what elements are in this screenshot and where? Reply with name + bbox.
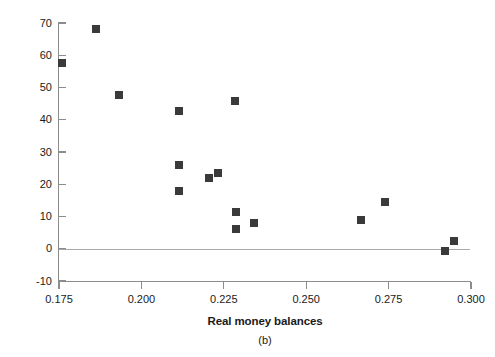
x-tick: [388, 282, 389, 289]
data-point: [441, 247, 449, 255]
y-tick-label: 0: [18, 243, 52, 254]
x-tick: [58, 282, 59, 289]
y-tick-label: 30: [18, 147, 52, 158]
data-point: [450, 237, 458, 245]
x-tick-label: 0.300: [448, 294, 494, 305]
data-point: [175, 107, 183, 115]
x-tick-label: 0.250: [283, 294, 329, 305]
data-point: [175, 187, 183, 195]
data-point: [205, 174, 213, 182]
y-tick-label: 10: [18, 211, 52, 222]
data-point: [232, 208, 240, 216]
panel-caption: (b): [59, 334, 471, 346]
x-axis-title: Real money balances: [59, 315, 471, 327]
x-tick: [223, 282, 224, 289]
x-tick-label: 0.225: [201, 294, 247, 305]
scatter-plot-figure: Monthly inflation rate (percent) -100102…: [0, 0, 495, 357]
data-point: [175, 161, 183, 169]
x-tick: [306, 282, 307, 289]
x-tick-label: 0.175: [36, 294, 82, 305]
y-tick-label: 70: [18, 18, 52, 29]
x-tick: [141, 282, 142, 289]
plot-area: [59, 23, 471, 281]
y-tick-label: -10: [18, 276, 52, 287]
data-point: [58, 59, 66, 67]
x-tick-label: 0.275: [366, 294, 412, 305]
y-tick-label: 20: [18, 179, 52, 190]
data-point: [231, 97, 239, 105]
data-point: [214, 169, 222, 177]
data-point: [250, 219, 258, 227]
y-tick-label: 50: [18, 82, 52, 93]
data-point: [357, 216, 365, 224]
y-tick-label: 40: [18, 114, 52, 125]
x-axis-line: [58, 281, 471, 282]
x-tick-label: 0.200: [118, 294, 164, 305]
x-tick: [470, 282, 471, 289]
data-point: [92, 25, 100, 33]
y-tick-label: 60: [18, 50, 52, 61]
data-point: [232, 225, 240, 233]
data-point: [115, 91, 123, 99]
data-point: [381, 198, 389, 206]
